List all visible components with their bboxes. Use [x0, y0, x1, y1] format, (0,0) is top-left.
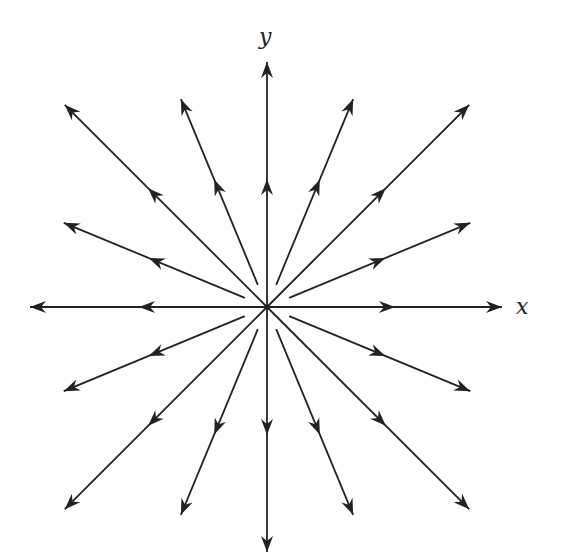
field-ray-line: [267, 105, 469, 307]
field-ray-line: [65, 307, 267, 509]
field-rays: [30, 62, 502, 552]
y-axis-label: y: [259, 26, 271, 48]
field-ray-line: [65, 105, 267, 307]
field-ray-line: [181, 99, 258, 285]
x-axis-label: x: [516, 296, 528, 318]
field-ray-line: [276, 99, 353, 285]
field-ray-line: [267, 307, 469, 509]
field-ray-line: [181, 329, 258, 515]
field-ray-line: [276, 329, 353, 515]
origin-point: [265, 305, 270, 310]
vector-field-diagram: [0, 0, 561, 557]
